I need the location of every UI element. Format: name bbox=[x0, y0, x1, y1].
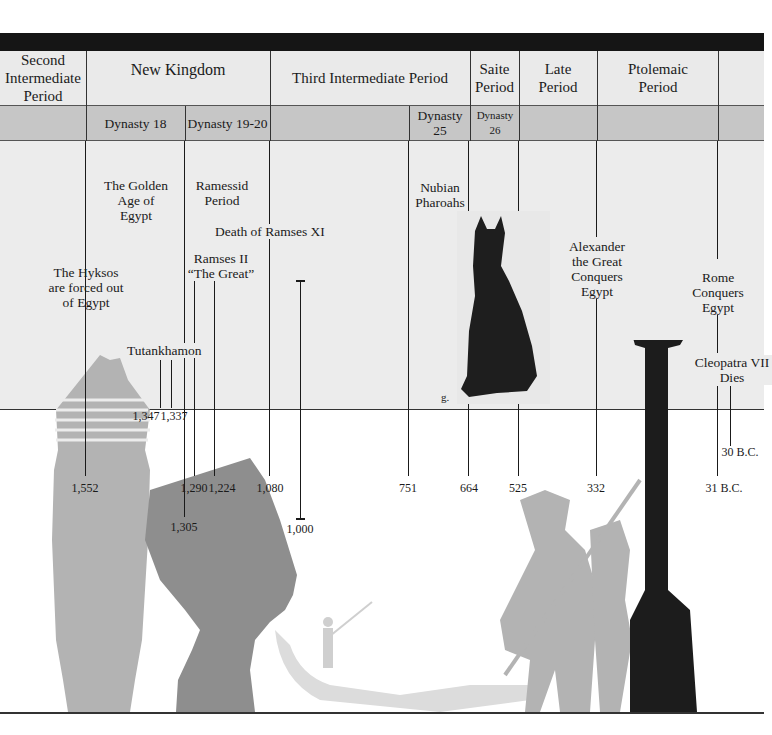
separator bbox=[270, 51, 271, 141]
dynasty-25: Dynasty 25 bbox=[412, 106, 468, 140]
period-new-kingdom: New Kingdom bbox=[86, 51, 270, 89]
line-cap bbox=[296, 518, 305, 520]
boat-silhouette-icon bbox=[275, 630, 540, 712]
event-cleopatra-dies: Cleopatra VII Dies bbox=[692, 355, 772, 385]
soldiers-silhouette-icon bbox=[500, 480, 640, 712]
separator bbox=[185, 106, 186, 141]
line-525 bbox=[518, 404, 519, 476]
nefertiti-silhouette-icon bbox=[145, 458, 297, 712]
separator bbox=[86, 51, 87, 141]
year-1224: 1,224 bbox=[209, 481, 236, 496]
event-ramses-ii: Ramses II “The Great” bbox=[186, 251, 256, 281]
silhouettes bbox=[0, 340, 764, 715]
separator bbox=[409, 106, 410, 141]
line-1000 bbox=[300, 281, 301, 519]
year-332: 332 bbox=[587, 481, 605, 496]
year-1290: 1,290 bbox=[181, 481, 208, 496]
event-tutankhamon: Tutankhamon bbox=[127, 343, 202, 358]
cat-statue-photo bbox=[457, 211, 550, 404]
line-664-top bbox=[468, 141, 469, 211]
year-1000: 1,000 bbox=[287, 522, 314, 537]
event-alexander: Alexander the Great Conquers Egypt bbox=[562, 239, 632, 299]
period-late: Late Period bbox=[529, 51, 587, 105]
event-rome-conquers: Rome Conquers Egypt bbox=[684, 270, 752, 315]
column-silhouette-icon bbox=[628, 340, 697, 712]
line-31bc-mid bbox=[717, 315, 718, 353]
event-ramessid-period: Ramessid Period bbox=[192, 178, 252, 208]
line-332 bbox=[596, 298, 597, 476]
top-bar bbox=[0, 33, 764, 51]
year-664: 664 bbox=[460, 481, 478, 496]
year-30bc: 30 B.C. bbox=[721, 445, 758, 460]
cat-statue-icon bbox=[457, 211, 550, 404]
event-death-ramses-xi: Death of Ramses XI bbox=[215, 224, 325, 239]
year-1080: 1,080 bbox=[257, 481, 284, 496]
event-nubian-pharoahs: Nubian Pharoahs bbox=[412, 180, 468, 210]
period-second-intermediate: Second Intermediate Period bbox=[0, 51, 86, 105]
period-row: Second Intermediate Period New Kingdom T… bbox=[0, 51, 764, 106]
dynasty-row: Dynasty 18 Dynasty 19-20 Dynasty 25 Dyna… bbox=[0, 106, 764, 141]
year-1552: 1,552 bbox=[72, 481, 99, 496]
line-751 bbox=[408, 141, 409, 476]
year-31bc: 31 B.C. bbox=[705, 481, 742, 496]
year-1347: 1,347 bbox=[133, 409, 160, 424]
line-31bc-top bbox=[717, 141, 718, 259]
separator bbox=[470, 51, 471, 141]
dynasty-26: Dynasty 26 bbox=[474, 106, 516, 140]
year-525: 525 bbox=[509, 481, 527, 496]
line-1224 bbox=[214, 280, 215, 476]
period-third-intermediate: Third Intermediate Period bbox=[290, 51, 450, 105]
line-31bc bbox=[717, 386, 718, 476]
line-1290 bbox=[194, 280, 195, 476]
period-ptolemaic: Ptolemaic Period bbox=[617, 51, 699, 105]
separator bbox=[718, 51, 719, 141]
separator bbox=[597, 51, 598, 141]
line-332-top bbox=[596, 141, 597, 237]
separator bbox=[519, 51, 520, 141]
event-golden-age: The Golden Age of Egypt bbox=[102, 178, 170, 223]
event-hyksos: The Hyksos are forced out of Egypt bbox=[48, 265, 124, 310]
year-751: 751 bbox=[399, 481, 417, 496]
year-1337: 1,337 bbox=[161, 409, 188, 424]
line-cap bbox=[296, 280, 305, 282]
line-525-top bbox=[518, 141, 519, 211]
line-664 bbox=[468, 404, 469, 476]
line-1347 bbox=[160, 360, 161, 408]
line-1080 bbox=[269, 141, 270, 476]
line-1305 bbox=[184, 141, 185, 517]
photo-caption: g. bbox=[441, 390, 449, 405]
line-30bc bbox=[730, 386, 731, 446]
dynasty-18: Dynasty 18 bbox=[86, 106, 185, 140]
period-saite: Saite Period bbox=[470, 51, 519, 105]
ground-line bbox=[0, 712, 764, 714]
year-1305: 1,305 bbox=[171, 520, 198, 535]
dynasty-19-20: Dynasty 19-20 bbox=[185, 106, 270, 140]
line-1337 bbox=[171, 360, 172, 408]
